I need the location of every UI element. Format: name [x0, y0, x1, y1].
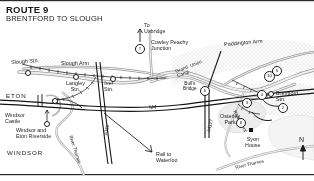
label-iver-stn: Iver Stn. — [104, 81, 114, 92]
to-uxbridge-arrow — [138, 29, 143, 42]
route-title: BRENTFORD TO SLOUGH — [6, 15, 103, 23]
route-map: ROUTE 9 BRENTFORD TO SLOUGH Slough Stn. … — [0, 0, 314, 181]
marker-4[interactable]: 4 — [257, 90, 267, 100]
uxbridge-canal-branch — [150, 30, 152, 78]
eton-town-marks — [38, 94, 42, 107]
label-to-uxbridge: To Uxbridge — [144, 23, 166, 34]
marker-6[interactable]: 6 — [200, 86, 210, 96]
marker-3[interactable]: 3 — [242, 98, 252, 108]
rail-to-waterloo-arrow — [104, 113, 152, 152]
label-windsor-castle: Windsor Castle — [5, 113, 25, 124]
marker-10[interactable]: 10 — [264, 71, 275, 82]
marker-7[interactable]: 7 — [135, 44, 145, 54]
label-eton: ETON — [6, 93, 27, 100]
label-brentford-stn: Brentford Stn. — [276, 91, 298, 102]
label-rail-to-waterloo: Rail to Waterloo — [156, 152, 177, 163]
label-windsor: WINDSOR — [7, 150, 43, 157]
marker-8[interactable]: 8 — [236, 118, 246, 128]
label-m4: M4 — [149, 105, 157, 111]
label-langley-stn: Langley Stn. — [66, 81, 85, 92]
label-slough-arm: Slough Arm — [61, 61, 89, 67]
label-bulls-bridge: Bull's Bridge — [183, 82, 197, 92]
label-syon-house: Syon House — [245, 137, 261, 148]
label-cowley-peachy-junction: Cowley Peachy Junction — [151, 40, 188, 51]
windsor-castle-pointer — [45, 110, 49, 121]
marker-2[interactable]: 2 — [278, 103, 288, 113]
label-windsor-eton-riverside: Windsor and Eton Riverside — [16, 128, 51, 139]
north-label: N — [299, 136, 304, 143]
syon-house-symbol — [249, 128, 253, 132]
